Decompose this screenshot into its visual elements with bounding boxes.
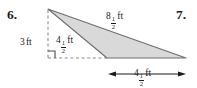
label-slant-numerator: 1 xyxy=(61,40,65,47)
label-height-value: 3 xyxy=(20,37,25,47)
label-height: 3ft xyxy=(20,38,32,48)
label-base-denominator: 2 xyxy=(139,80,143,88)
label-base-whole: 4 xyxy=(134,68,139,78)
label-slant-side: 412ft xyxy=(56,36,73,55)
label-hypotenuse-whole: 8 xyxy=(106,11,111,21)
label-base-numerator: 1 xyxy=(139,73,143,80)
label-base-unit: ft xyxy=(145,68,151,78)
label-hypotenuse-denominator: 2 xyxy=(111,23,115,31)
label-hypotenuse-unit: ft xyxy=(117,11,123,21)
label-slant-denominator: 2 xyxy=(61,47,65,55)
label-slant-fraction: 12 xyxy=(61,40,65,54)
label-base-fraction: 12 xyxy=(139,73,143,87)
right-angle-marker xyxy=(48,51,55,58)
label-slant-whole: 4 xyxy=(56,35,61,45)
label-hypotenuse-numerator: 1 xyxy=(111,16,115,23)
label-hypotenuse-fraction: 12 xyxy=(111,16,115,30)
label-hypotenuse: 812ft xyxy=(106,12,123,31)
exercise-figure-page: 6. 7. 3ft 812ft 412ft 412ft xyxy=(0,0,197,88)
dimension-arrow-right-icon xyxy=(178,71,186,76)
label-base: 412ft xyxy=(134,69,151,88)
dimension-arrow-left-icon xyxy=(108,71,116,76)
label-height-unit: ft xyxy=(26,37,32,47)
label-slant-unit: ft xyxy=(67,35,73,45)
